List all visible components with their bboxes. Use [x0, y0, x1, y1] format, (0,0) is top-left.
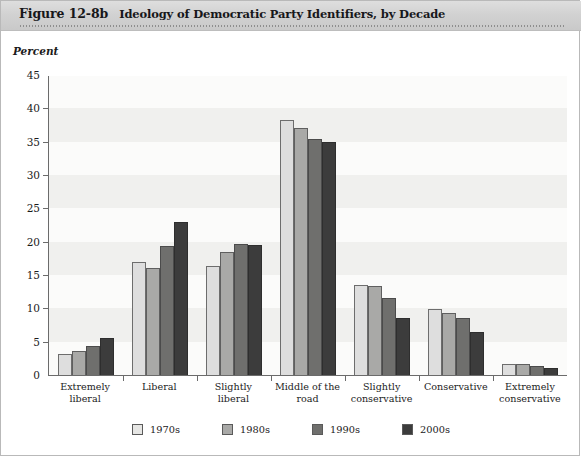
plot-area: 051015202530354045 — [48, 76, 567, 376]
category-labels: ExtremelyliberalLiberal SlightlyliberalM… — [48, 381, 567, 404]
category-label: Slightlyconservative — [345, 381, 419, 404]
legend-item[interactable]: 1970s — [132, 424, 180, 435]
category-label-line: liberal — [196, 393, 270, 405]
bar[interactable] — [544, 368, 558, 375]
bar[interactable] — [86, 346, 100, 375]
bar-group — [197, 76, 271, 375]
y-tick-label: 30 — [27, 169, 40, 181]
legend-swatch — [402, 424, 413, 435]
bar[interactable] — [160, 246, 174, 375]
bar-group — [49, 76, 123, 375]
legend-swatch — [132, 424, 143, 435]
category-label: Slightlyliberal — [196, 381, 270, 404]
bar[interactable] — [132, 262, 146, 375]
y-tick-label: 35 — [27, 136, 40, 148]
header-dotted-rule — [19, 25, 565, 27]
bar[interactable] — [354, 285, 368, 375]
y-tick-label: 15 — [27, 269, 40, 281]
y-axis-caption: Percent — [13, 45, 58, 57]
bar-group — [419, 76, 493, 375]
category-label-line: conservative — [345, 393, 419, 405]
bar[interactable] — [470, 332, 484, 375]
category-label-line: Extremely — [493, 381, 567, 393]
category-label-line: road — [270, 393, 344, 405]
legend-swatch — [222, 424, 233, 435]
bar[interactable] — [456, 318, 470, 375]
category-label: Middle of theroad — [270, 381, 344, 404]
bar[interactable] — [72, 351, 86, 375]
bar[interactable] — [516, 364, 530, 375]
bar[interactable] — [280, 120, 294, 375]
category-label-line: conservative — [493, 393, 567, 405]
bar[interactable] — [442, 313, 456, 375]
category-label-line: liberal — [48, 393, 122, 405]
category-label-line: Slightly — [196, 381, 270, 393]
bar[interactable] — [396, 318, 410, 375]
y-tick-label: 20 — [27, 236, 40, 248]
category-label-line: Conservative — [419, 381, 493, 393]
category-label: Extremelyconservative — [493, 381, 567, 404]
bar[interactable] — [100, 338, 114, 375]
y-tick-label: 25 — [27, 202, 40, 214]
y-tick-label: 10 — [27, 302, 40, 314]
legend-label: 1970s — [150, 424, 180, 435]
category-label: Conservative — [419, 381, 493, 404]
bar[interactable] — [382, 298, 396, 375]
bar[interactable] — [294, 128, 308, 375]
category-label: Liberal — [122, 381, 196, 404]
y-tick-label: 5 — [33, 336, 40, 348]
bar-group — [123, 76, 197, 375]
legend-swatch — [312, 424, 323, 435]
bar-group — [345, 76, 419, 375]
category-label-line: Liberal — [122, 381, 196, 393]
figure-header: Figure 12-8b Ideology of Democratic Part… — [19, 6, 445, 21]
bar-group — [271, 76, 345, 375]
bar[interactable] — [206, 266, 220, 375]
category-label-line: Extremely — [48, 381, 122, 393]
bar[interactable] — [530, 366, 544, 375]
bar[interactable] — [146, 268, 160, 375]
category-label-line: Slightly — [345, 381, 419, 393]
bar[interactable] — [368, 286, 382, 375]
legend-item[interactable]: 2000s — [402, 424, 450, 435]
legend-label: 1980s — [240, 424, 270, 435]
bar[interactable] — [502, 364, 516, 375]
bar[interactable] — [428, 309, 442, 375]
figure-title: Ideology of Democratic Party Identifiers… — [119, 7, 445, 21]
bar[interactable] — [58, 354, 72, 375]
figure-number: Figure 12-8b — [19, 6, 108, 21]
y-tick-label: 0 — [33, 369, 40, 381]
category-label-line: Middle of the — [270, 381, 344, 393]
bar[interactable] — [308, 139, 322, 375]
category-label-line — [122, 393, 196, 405]
legend: 1970s1980s1990s2000s — [1, 424, 581, 435]
bar[interactable] — [220, 252, 234, 375]
legend-label: 2000s — [420, 424, 450, 435]
bar[interactable] — [174, 222, 188, 375]
figure-header-band: Figure 12-8b Ideology of Democratic Part… — [1, 1, 581, 31]
bar[interactable] — [322, 142, 336, 375]
legend-item[interactable]: 1980s — [222, 424, 270, 435]
bar-group — [493, 76, 567, 375]
bar[interactable] — [234, 244, 248, 375]
category-label-line — [419, 393, 493, 405]
bar[interactable] — [248, 245, 262, 375]
y-tick-label: 45 — [27, 69, 40, 81]
legend-label: 1990s — [330, 424, 360, 435]
y-tick-label: 40 — [27, 102, 40, 114]
legend-item[interactable]: 1990s — [312, 424, 360, 435]
category-label: Extremelyliberal — [48, 381, 122, 404]
bar-groups — [49, 76, 567, 375]
